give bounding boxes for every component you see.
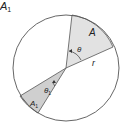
label-radius: r xyxy=(92,58,96,68)
sector-A1 xyxy=(20,68,66,113)
sector-A xyxy=(66,15,113,68)
title-label: A1 xyxy=(0,0,11,13)
label-theta: θ xyxy=(77,45,82,54)
circle-sector-diagram: A1 A θ r θ1 A1 xyxy=(0,0,127,128)
label-sector-A: A xyxy=(88,27,96,38)
